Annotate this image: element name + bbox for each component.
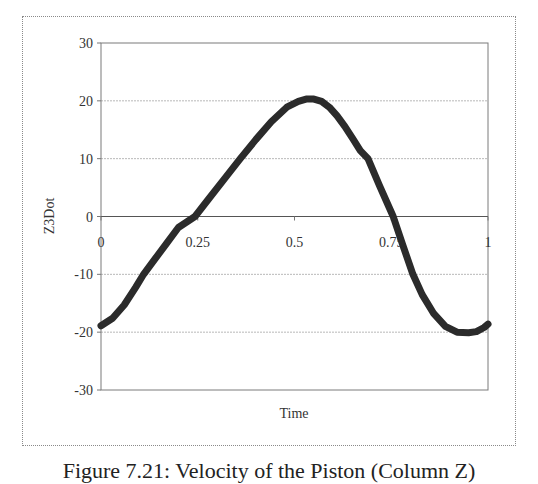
x-axis-ticks: 00.250.50.751	[98, 217, 492, 250]
y-tick-label: 10	[79, 152, 93, 167]
y-axis-ticks: 3020100-10-20-30	[74, 36, 101, 398]
y-tick-label: 30	[79, 36, 93, 51]
y-tick-label: 20	[79, 94, 93, 109]
x-tick-label: 0.5	[286, 235, 304, 250]
x-tick-label: 1	[485, 235, 492, 250]
x-tick-label: 0	[98, 235, 105, 250]
figure-caption: Figure 7.21: Velocity of the Piston (Col…	[0, 458, 538, 484]
x-axis-title: Time	[279, 406, 308, 421]
y-tick-label: -10	[74, 267, 93, 282]
y-tick-label: -30	[74, 383, 93, 398]
y-tick-label: -20	[74, 325, 93, 340]
y-tick-label: 0	[86, 210, 93, 225]
x-tick-label: 0.25	[186, 235, 211, 250]
y-axis-title: Z3Dot	[42, 198, 57, 235]
z3dot-series-line	[101, 99, 488, 333]
